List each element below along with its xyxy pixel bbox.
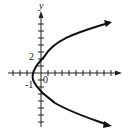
curve-arrow-bottom-icon: [103, 121, 112, 128]
curve-arrow-top-icon: [104, 20, 112, 27]
tick-label-neg1: -1: [25, 80, 33, 90]
y-axis-arrow-icon: [39, 11, 44, 18]
y-axis-label: y: [39, 1, 43, 11]
origin-label: 0: [43, 75, 48, 85]
tick-label-2: 2: [29, 52, 34, 62]
parabola-graph: [0, 0, 129, 139]
x-axis-arrow-icon: [115, 71, 122, 76]
